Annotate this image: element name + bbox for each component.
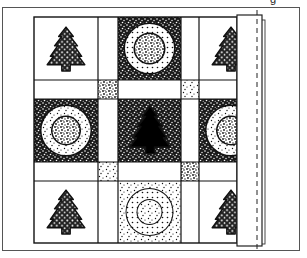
block-r2c1: [34, 99, 98, 162]
block-r1c2: [118, 17, 181, 80]
cornerstone: [181, 162, 199, 181]
block-r3c2: [118, 181, 181, 243]
binding-strip: [237, 10, 265, 252]
cornerstone: [181, 80, 199, 99]
block-r1c1: [34, 17, 98, 80]
cornerstone: [98, 162, 118, 181]
block-r3c1: [34, 181, 98, 243]
quilt-figure: [0, 0, 307, 258]
quilt-grid: [34, 17, 264, 243]
cornerstone: [98, 80, 118, 99]
block-r2c2: [118, 99, 181, 162]
